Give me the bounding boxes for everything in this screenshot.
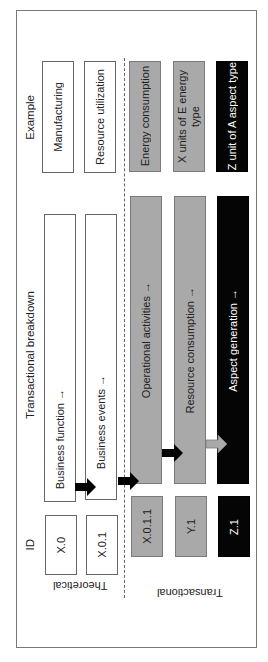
header-transactional-breakdown: Transactional breakdown	[20, 215, 40, 495]
id-box-x011: X.0.1.1	[131, 496, 163, 557]
section-label-theoretical: Theoretical	[45, 578, 115, 594]
breakdown-box-business-function: Business function →	[44, 214, 76, 502]
arrow-right-icon	[162, 444, 184, 462]
id-box-x01: X.0.1	[86, 515, 118, 575]
arrow-right-icon	[118, 472, 140, 490]
arrow-right-gray-icon	[206, 435, 228, 453]
section-label-transactional: Transactional	[150, 585, 230, 601]
breakdown-box-resource-consumption: Resource consumption →	[174, 196, 206, 484]
example-box-4: Z unit of A aspect type	[216, 61, 248, 172]
id-box-z1: Z.1	[218, 496, 250, 557]
example-box-0: Manufacturing	[42, 61, 74, 173]
breakdown-box-operational-activities: Operational activities →	[130, 196, 162, 484]
theoretical-transactional-divider	[124, 58, 125, 598]
breakdown-box-business-events: Business events →	[85, 214, 117, 500]
id-box-x0: X.0	[45, 515, 77, 575]
header-example: Example	[20, 60, 40, 175]
id-box-y1: Y.1	[175, 496, 207, 557]
arrow-right-icon	[75, 478, 97, 496]
example-box-2: Energy consumption	[129, 61, 161, 172]
header-id: ID	[20, 515, 40, 575]
example-box-1: Resource utilization	[84, 61, 116, 173]
example-box-3: X units of E energy type	[173, 61, 205, 172]
